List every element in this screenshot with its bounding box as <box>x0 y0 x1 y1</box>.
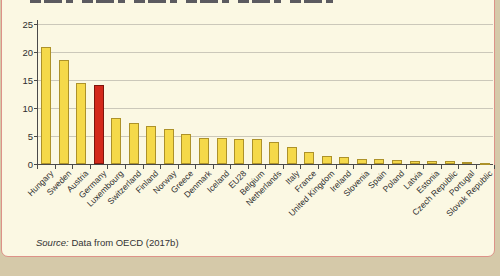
gridline-25 <box>38 24 493 25</box>
x-axis-tick <box>37 165 38 169</box>
gridline-10 <box>38 108 493 109</box>
bar-sweden <box>59 60 69 164</box>
x-axis-tick <box>90 165 91 169</box>
gridline-20 <box>38 52 493 53</box>
x-axis-tick <box>230 165 231 169</box>
bar-chart: 0510152025HungarySwedenAustriaGermanyLux… <box>0 0 500 260</box>
x-axis-tick <box>441 165 442 169</box>
gridline-5 <box>38 136 493 137</box>
x-axis-tick <box>178 165 179 169</box>
bar-spain <box>374 159 384 164</box>
bar-italy <box>287 147 297 164</box>
bar-slovenia <box>357 159 367 164</box>
bar-portugal <box>462 162 472 164</box>
bar-germany <box>94 85 104 164</box>
x-axis-tick <box>353 165 354 169</box>
x-axis-tick <box>494 165 495 169</box>
bar-hungary <box>41 47 51 164</box>
x-axis-tick <box>423 165 424 169</box>
x-axis-tick <box>125 165 126 169</box>
bar-austria <box>76 83 86 164</box>
x-axis-tick <box>265 165 266 169</box>
bar-slovak-republic <box>480 163 490 165</box>
x-axis-tick <box>406 165 407 169</box>
y-axis-label: 20 <box>11 47 33 58</box>
bar-ireland <box>339 157 349 164</box>
y-axis-label: 25 <box>11 19 33 30</box>
x-axis-tick <box>213 165 214 169</box>
x-axis-tick <box>248 165 249 169</box>
bar-netherlands <box>269 142 279 164</box>
x-axis-tick <box>371 165 372 169</box>
bar-denmark <box>199 138 209 164</box>
x-axis-tick <box>318 165 319 169</box>
bar-poland <box>392 160 402 164</box>
bar-luxembourg <box>111 118 121 164</box>
y-axis-label: 5 <box>11 131 33 142</box>
x-axis-tick <box>107 165 108 169</box>
bar-france <box>304 152 314 164</box>
x-axis-tick <box>336 165 337 169</box>
x-axis-tick <box>195 165 196 169</box>
bar-finland <box>146 126 156 164</box>
x-axis-tick <box>72 165 73 169</box>
x-axis-tick <box>458 165 459 169</box>
x-axis-tick <box>55 165 56 169</box>
bar-eu28 <box>234 139 244 164</box>
y-axis-label: 0 <box>11 159 33 170</box>
x-axis-tick <box>143 165 144 169</box>
x-axis-tick <box>476 165 477 169</box>
bar-estonia <box>427 161 437 164</box>
source-label: Source: <box>36 237 69 248</box>
bar-united-kingdom <box>322 156 332 164</box>
x-axis-tick <box>388 165 389 169</box>
y-axis-label: 10 <box>11 103 33 114</box>
y-axis-label: 15 <box>11 75 33 86</box>
bar-greece <box>181 134 191 164</box>
y-axis-line <box>37 20 38 165</box>
gridline-15 <box>38 80 493 81</box>
source-text: Data from OECD (2017b) <box>69 237 179 248</box>
bar-czech-republic <box>445 161 455 164</box>
x-axis-tick <box>283 165 284 169</box>
x-axis-tick <box>160 165 161 169</box>
source-note: Source: Data from OECD (2017b) <box>36 237 179 248</box>
bar-belgium <box>252 139 262 164</box>
bar-norway <box>164 129 174 164</box>
bar-switzerland <box>129 123 139 164</box>
bar-latvia <box>410 161 420 164</box>
x-axis-tick <box>300 165 301 169</box>
bar-iceland <box>217 138 227 164</box>
